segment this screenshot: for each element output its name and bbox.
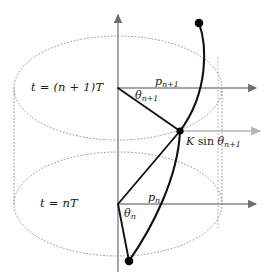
trajectory-arc-upper	[180, 23, 204, 131]
momentum-label-lower-subscript: n	[155, 196, 160, 205]
kicked-rotor-diagram: t = (n + 1)T t = nT pn+1 pn θn+1 θn K si…	[0, 0, 274, 278]
kick-point-marker	[176, 127, 183, 134]
angle-label-upper-symbol: θ	[135, 89, 142, 102]
momentum-label-lower: pn	[148, 192, 160, 205]
time-label-lower: t = nT	[40, 198, 78, 210]
momentum-label-upper-subscript: n+1	[162, 80, 179, 89]
time-label-upper: t = (n + 1)T	[31, 82, 103, 94]
time-label-lower-eq: =	[49, 196, 59, 210]
time-label-upper-eq: =	[40, 80, 50, 94]
angle-label-upper-subscript: n+1	[142, 94, 159, 103]
kick-magnitude-label: K sin θn+1	[186, 136, 241, 149]
momentum-label-upper-symbol: p	[155, 75, 162, 88]
kick-angle-subscript: n+1	[224, 140, 241, 149]
start-point-lower-marker	[125, 257, 134, 266]
angle-label-lower-subscript: n	[131, 212, 136, 221]
time-label-lower-rhs: nT	[62, 196, 77, 210]
time-label-upper-rhs: (n + 1)T	[53, 80, 103, 94]
momentum-label-lower-symbol: p	[148, 191, 155, 204]
angle-label-upper: θn+1	[135, 90, 158, 103]
kick-coefficient: K	[186, 135, 194, 148]
kick-function: sin	[198, 135, 214, 148]
start-point-upper-marker	[195, 19, 204, 28]
momentum-label-upper: pn+1	[155, 76, 179, 89]
angle-label-lower: θn	[124, 208, 136, 221]
angle-label-lower-symbol: θ	[124, 207, 131, 220]
